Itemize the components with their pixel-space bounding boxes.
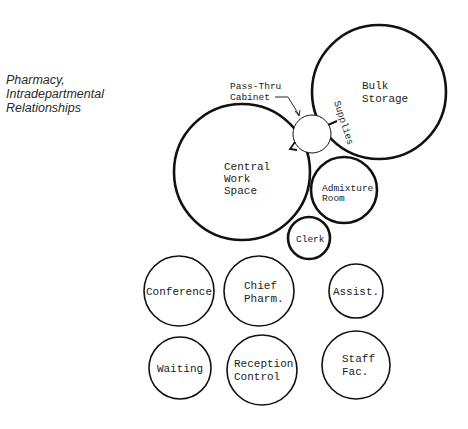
room-chief-pharm: Chief Pharm. [224, 256, 294, 326]
room-central-work-space: Central Work Space [174, 104, 310, 240]
staff-fac-circle [322, 331, 390, 399]
room-waiting: Waiting [149, 337, 211, 399]
clerk-label: Clerk [296, 234, 325, 245]
bulk-storage-label-2: Storage [362, 93, 408, 105]
leader-arrow [275, 97, 299, 115]
staff-fac-label-1: Staff [342, 353, 375, 365]
pass-thru-cabinet-label-2: Cabinet [230, 92, 270, 103]
assist-label: Assist. [333, 286, 379, 298]
supplies-connector-line [328, 121, 337, 125]
staff-fac-label-2: Fac. [342, 366, 368, 378]
reception-control-label-1: Reception [234, 358, 293, 370]
room-bulk-storage: Bulk Storage [312, 25, 446, 159]
room-staff-fac: Staff Fac. [322, 331, 390, 399]
waiting-label: Waiting [157, 363, 203, 375]
bubble-diagram: Bulk Storage Central Work Space Supplies… [0, 0, 468, 429]
room-reception-control: Reception Control [227, 335, 297, 405]
conference-label: Conference [146, 286, 212, 298]
central-work-space-label-3: Space [224, 185, 257, 197]
chief-pharm-label-1: Chief [244, 280, 277, 292]
central-work-space-label-2: Work [224, 173, 251, 185]
pass-thru-cabinet-circle [293, 115, 331, 153]
chief-pharm-label-2: Pharm. [244, 293, 284, 305]
room-assist: Assist. [329, 264, 383, 318]
bulk-storage-label-1: Bulk [362, 80, 389, 92]
room-admixture: Admixture Room [311, 157, 377, 223]
central-work-space-label-1: Central [224, 161, 270, 173]
reception-control-label-2: Control [234, 371, 280, 383]
bulk-storage-circle [312, 25, 446, 159]
room-clerk: Clerk [288, 217, 330, 259]
admixture-room-label-2: Room [322, 193, 345, 204]
pass-thru-cabinet-label-1: Pass-Thru [230, 81, 281, 92]
reception-control-circle [227, 335, 297, 405]
room-conference: Conference [144, 256, 214, 326]
